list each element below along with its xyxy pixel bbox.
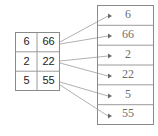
connector-row0-key-to-slot0 [60,16,108,42]
arrow-head-slot1 [108,34,112,39]
arrow-head-slot3 [108,74,112,79]
list-item: 66 [122,27,134,41]
arrow-head-slot0 [108,14,112,19]
key-cell-row1: 2 [23,55,29,67]
arrow-head-slot4 [108,94,112,99]
list-item: 5 [125,87,131,101]
value-cell-row2: 55 [42,74,54,86]
diagram-svg: 6 66 2 22 5 55 6 66 2 22 [0,0,158,136]
connector-group [60,16,108,116]
key-cell-row2: 5 [23,74,29,86]
key-cell-row0: 6 [23,35,29,47]
value-cell-row0: 66 [42,35,54,47]
connector-row0-value-to-slot1 [60,36,108,44]
list-item: 2 [125,47,131,61]
key-value-table: 6 66 2 22 5 55 [16,33,60,91]
list-item: 6 [125,7,131,21]
value-cell-row1: 22 [42,55,54,67]
arrow-head-slot5 [108,114,112,119]
arrowhead-group [108,14,112,119]
flat-slot-array: 6 66 2 22 5 55 [98,6,154,125]
diagram-canvas: 6 66 2 22 5 55 6 66 2 22 [0,0,158,136]
connector-row1-key-to-slot2 [60,56,108,61]
list-item: 22 [122,67,134,81]
arrow-head-slot2 [108,54,112,59]
connector-row2-key-to-slot4 [60,82,108,96]
list-item: 55 [122,106,134,120]
connector-row2-value-to-slot5 [60,85,108,116]
